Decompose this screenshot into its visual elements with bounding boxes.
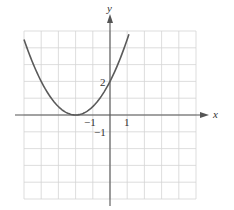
x-axis-arrow-icon [200,112,209,118]
y-axis-arrow-icon [107,14,113,23]
x-axis-label: x [212,108,218,120]
y-axis-label: y [106,2,112,14]
x-tick-label-pos1: 1 [124,116,130,128]
coordinate-plane: x y −1 1 2 −1 [0,0,234,210]
parabola-curve [24,34,129,115]
y-tick-label-pos2: 2 [100,76,106,88]
y-tick-label-neg1: −1 [94,126,106,138]
axes [15,14,209,206]
